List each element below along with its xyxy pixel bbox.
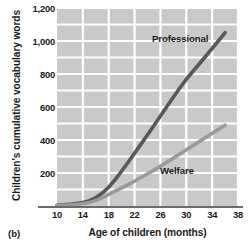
chart-canvas: [57, 8, 238, 206]
y-tick-label: 1,000: [33, 36, 55, 47]
y-tick-label: 600: [40, 102, 55, 113]
x-axis-line: [38, 206, 243, 208]
grid-lines: [57, 8, 238, 206]
x-tick-label: 26: [155, 209, 165, 220]
x-tick-label: 14: [78, 209, 88, 220]
y-tick-label: 1,200: [33, 3, 55, 14]
y-axis-tick-labels: 2004006008001,0001,200: [22, 0, 55, 210]
x-tick-label: 38: [233, 209, 243, 220]
y-tick-label: 400: [40, 135, 55, 146]
y-axis-title: Children's cumulative vocabulary words: [11, 8, 22, 204]
x-axis-title: Age of children (months): [57, 227, 238, 238]
x-tick-label: 34: [207, 209, 217, 220]
x-tick-label: 10: [52, 209, 62, 220]
panel-label: (b): [8, 228, 20, 239]
series-label-welfare: Welfare: [160, 165, 194, 176]
figure-panel-b: Children's cumulative vocabulary words 2…: [0, 0, 251, 251]
y-tick-label: 800: [40, 69, 55, 80]
y-tick-label: 200: [40, 168, 55, 179]
x-tick-label: 18: [104, 209, 114, 220]
series-label-professional: Professional: [152, 33, 208, 44]
x-tick-label: 22: [130, 209, 140, 220]
x-axis-tick-labels: 1014182226303438: [0, 209, 251, 223]
x-tick-label: 30: [181, 209, 191, 220]
plot-area: [57, 8, 238, 206]
